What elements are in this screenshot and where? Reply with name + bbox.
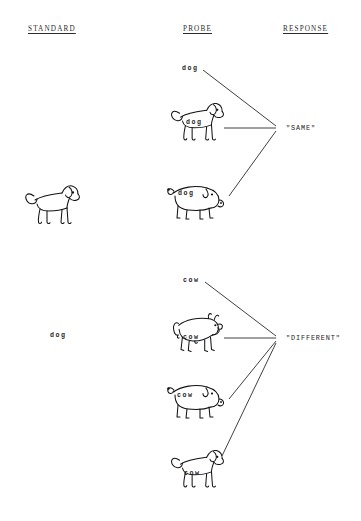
probe-word-cow: cow — [183, 277, 199, 284]
probe-dog-picture-cow-label — [166, 440, 226, 496]
probe-word-dog: dog — [182, 65, 198, 72]
probe-pig-picture-inner-word-cow: cow — [177, 392, 193, 399]
response-different: "DIFFERENT" — [286, 334, 341, 342]
column-header-standard: STANDARD — [28, 25, 76, 33]
standard-dog-word: dog — [50, 332, 66, 339]
probe-pig-picture-inner-word: dog — [178, 190, 194, 197]
connector-same-pig — [229, 131, 276, 196]
column-header-probe: PROBE — [183, 25, 212, 33]
probe-cow-picture-inner-word: cow — [183, 334, 199, 341]
probe-dog-picture-inner-word-cow: cow — [184, 470, 200, 477]
connector-diff-pig — [229, 341, 276, 399]
figure-canvas: STANDARD PROBE RESPONSE — [0, 0, 361, 521]
probe-dog-picture-inner-word: dog — [186, 119, 202, 126]
column-header-response: RESPONSE — [283, 25, 328, 33]
probe-pig-picture-cow-label — [163, 377, 229, 425]
probe-pig-picture-dog-label — [164, 178, 228, 226]
standard-dog-picture — [20, 176, 82, 232]
connector-diff-dog — [222, 343, 276, 456]
response-same: "SAME" — [286, 124, 316, 132]
